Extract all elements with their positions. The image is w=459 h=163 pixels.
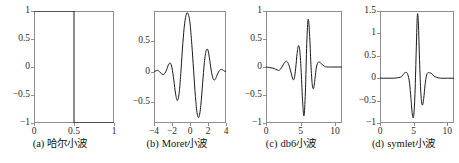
caption-text-db6: db6小波 — [280, 138, 316, 149]
xtick-mark-morlet-1 — [172, 123, 173, 126]
xtick-mark-symlet-0 — [380, 123, 381, 126]
xtick-label-morlet-1: −2 — [167, 127, 177, 137]
panel-symlet: −1−0.500.511.50510 (d)symlet小波 — [348, 0, 459, 163]
curve-haar — [34, 11, 114, 123]
xtick-mark-haar-1 — [74, 123, 75, 126]
caption-symlet: (d)symlet小波 — [348, 138, 459, 150]
ytick-label-haar-0: −1 — [20, 118, 30, 128]
plot-area-morlet: −0.500.5−4−2024 — [154, 11, 226, 123]
ytick-label-haar-1: −0.5 — [13, 90, 30, 100]
caption-text-morlet: Moret小波 — [162, 138, 208, 149]
xtick-label-haar-0: 0 — [32, 127, 37, 137]
caption-text-symlet: symlet小波 — [387, 138, 435, 149]
caption-db6: (c)db6小波 — [234, 138, 348, 150]
xtick-mark-morlet-0 — [154, 123, 155, 126]
xtick-label-morlet-4: 4 — [224, 127, 229, 137]
plot-area-symlet: −1−0.500.511.50510 — [380, 11, 454, 123]
xtick-mark-symlet-2 — [447, 123, 448, 126]
series-path-morlet-0 — [154, 13, 226, 118]
ytick-mark-morlet-1 — [151, 72, 154, 73]
ytick-label-db6-1: −0.5 — [245, 90, 262, 100]
xtick-mark-morlet-3 — [208, 123, 209, 126]
ytick-mark-haar-1 — [31, 95, 34, 96]
ytick-label-symlet-4: 1 — [371, 29, 376, 39]
ytick-mark-haar-2 — [31, 67, 34, 68]
ytick-mark-db6-1 — [263, 95, 266, 96]
ytick-mark-symlet-3 — [377, 56, 380, 57]
series-path-haar-0 — [34, 11, 114, 123]
xtick-label-symlet-1: 5 — [411, 127, 416, 137]
ytick-mark-symlet-4 — [377, 33, 380, 34]
xtick-mark-db6-1 — [301, 123, 302, 126]
ytick-label-morlet-0: −0.5 — [133, 97, 150, 107]
xtick-label-db6-0: 0 — [264, 127, 269, 137]
curve-db6 — [266, 11, 342, 123]
ytick-mark-db6-4 — [263, 11, 266, 12]
xtick-mark-haar-0 — [34, 123, 35, 126]
curve-symlet — [380, 11, 454, 123]
panel-haar: −1−0.500.5100.51 (a)哈尔小波 — [0, 0, 120, 163]
wavelet-figure-row: −1−0.500.5100.51 (a)哈尔小波 −0.500.5−4−2024… — [0, 0, 459, 163]
ytick-mark-morlet-2 — [151, 41, 154, 42]
series-path-symlet-0 — [380, 14, 454, 118]
ytick-label-db6-3: 0.5 — [250, 34, 262, 44]
xtick-mark-db6-0 — [266, 123, 267, 126]
xtick-mark-haar-2 — [114, 123, 115, 126]
ytick-mark-haar-3 — [31, 39, 34, 40]
plot-area-db6: −1−0.500.510510 — [266, 11, 342, 123]
ytick-label-symlet-0: −1 — [366, 118, 376, 128]
ytick-label-morlet-2: 0.5 — [138, 37, 150, 47]
ytick-label-db6-2: 0 — [257, 62, 262, 72]
ytick-label-symlet-2: 0 — [371, 73, 376, 83]
ytick-mark-db6-2 — [263, 67, 266, 68]
ytick-label-morlet-1: 0 — [145, 67, 150, 77]
panel-morlet: −0.500.5−4−2024 (b)Moret小波 — [120, 0, 234, 163]
caption-haar: (a)哈尔小波 — [0, 138, 120, 150]
caption-tag-morlet: (b) — [147, 138, 159, 149]
series-path-db6-0 — [266, 19, 342, 116]
xtick-mark-db6-2 — [335, 123, 336, 126]
xtick-label-morlet-2: 0 — [188, 127, 193, 137]
panel-db6: −1−0.500.510510 (c)db6小波 — [234, 0, 348, 163]
plot-area-haar: −1−0.500.5100.51 — [34, 11, 114, 123]
caption-morlet: (b)Moret小波 — [120, 138, 234, 150]
xtick-label-haar-2: 1 — [112, 127, 117, 137]
ytick-mark-morlet-0 — [151, 102, 154, 103]
ytick-mark-symlet-2 — [377, 78, 380, 79]
xtick-label-symlet-2: 10 — [443, 127, 453, 137]
ytick-label-haar-2: 0 — [25, 62, 30, 72]
ytick-label-symlet-5: 1.5 — [364, 6, 376, 16]
xtick-label-haar-1: 0.5 — [68, 127, 80, 137]
caption-text-haar: 哈尔小波 — [47, 138, 87, 149]
xtick-label-morlet-3: 2 — [206, 127, 211, 137]
xtick-mark-symlet-1 — [414, 123, 415, 126]
caption-tag-db6: (c) — [266, 138, 278, 149]
ytick-mark-symlet-1 — [377, 101, 380, 102]
xtick-label-symlet-0: 0 — [378, 127, 383, 137]
ytick-label-symlet-3: 0.5 — [364, 51, 376, 61]
xtick-mark-morlet-2 — [190, 123, 191, 126]
ytick-label-haar-4: 1 — [25, 6, 30, 16]
ytick-mark-haar-4 — [31, 11, 34, 12]
xtick-label-morlet-0: −4 — [149, 127, 159, 137]
xtick-label-db6-2: 10 — [330, 127, 340, 137]
ytick-mark-db6-3 — [263, 39, 266, 40]
ytick-mark-symlet-5 — [377, 11, 380, 12]
xtick-label-db6-1: 5 — [298, 127, 303, 137]
ytick-label-haar-3: 0.5 — [18, 34, 30, 44]
caption-tag-haar: (a) — [33, 138, 45, 149]
caption-tag-symlet: (d) — [372, 138, 384, 149]
curve-morlet — [154, 11, 226, 123]
ytick-label-db6-4: 1 — [257, 6, 262, 16]
ytick-label-db6-0: −1 — [252, 118, 262, 128]
xtick-mark-morlet-4 — [226, 123, 227, 126]
ytick-label-symlet-1: −0.5 — [359, 96, 376, 106]
